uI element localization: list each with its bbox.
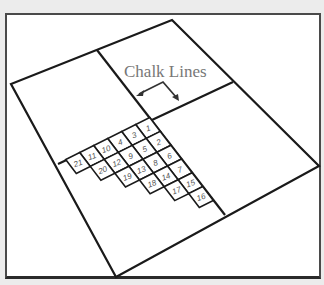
chalk-lines-label: Chalk Lines [124,62,207,81]
arrowhead-left-icon [136,90,144,96]
tile-grid: 134101121259122068131971418151716 [66,118,214,208]
chalk-lines-arrow-icon [139,82,176,97]
floor-tile-diagram: 134101121259122068131971418151716 Chalk … [0,0,324,285]
